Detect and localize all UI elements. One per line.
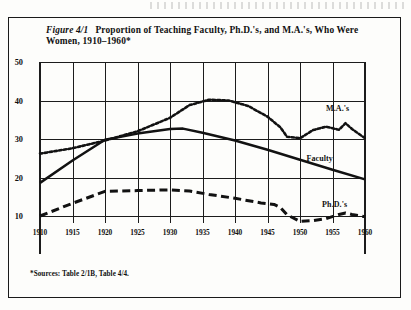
figure-container: Figure 4/1Proportion of Teaching Faculty… bbox=[0, 0, 411, 310]
x-tick-1960 bbox=[365, 216, 366, 223]
x-tick-1930 bbox=[170, 216, 171, 223]
series-label-phd: Ph.D.'s bbox=[322, 200, 347, 209]
x-tick-1940 bbox=[235, 216, 236, 223]
x-tick-label-1935: 1935 bbox=[195, 228, 209, 237]
x-tick-label-1920: 1920 bbox=[98, 228, 112, 237]
x-tick-label-1945: 1945 bbox=[260, 228, 274, 237]
x-tick-label-1930: 1930 bbox=[163, 228, 177, 237]
plot-area: 1020304050 19101915192019251930193519401… bbox=[40, 62, 365, 216]
x-tick-1935 bbox=[203, 216, 204, 223]
x-tick-label-1950: 1950 bbox=[293, 228, 307, 237]
figure-number: Figure 4/1 bbox=[46, 25, 95, 35]
x-tick-label-1955: 1955 bbox=[325, 228, 339, 237]
y-tick-label-10: 10 bbox=[1, 212, 23, 221]
x-tick-1915 bbox=[73, 216, 74, 223]
y-tick-label-30: 30 bbox=[1, 135, 23, 144]
y-tick-label-40: 40 bbox=[1, 96, 23, 105]
x-tick-label-1910: 1910 bbox=[33, 228, 47, 237]
data-series-lines bbox=[40, 62, 365, 216]
scan-artifact-header bbox=[150, 2, 405, 9]
series-label-faculty: Faculty bbox=[307, 154, 333, 163]
series-line-mas bbox=[40, 100, 365, 154]
figure-title-block: Figure 4/1Proportion of Teaching Faculty… bbox=[46, 25, 364, 48]
y-tick-label-20: 20 bbox=[1, 173, 23, 182]
x-tick-1950 bbox=[300, 216, 301, 223]
x-tick-1945 bbox=[268, 216, 269, 223]
y-tick-label-50: 50 bbox=[1, 58, 23, 67]
figure-footnote: *Sources: Table 2/1B, Table 4/4. bbox=[30, 270, 129, 278]
x-tick-label-1940: 1940 bbox=[228, 228, 242, 237]
x-tick-1925 bbox=[138, 216, 139, 223]
series-label-ma: M.A.'s bbox=[326, 104, 349, 113]
x-tick-label-1960: 1960 bbox=[358, 228, 372, 237]
x-tick-1920 bbox=[105, 216, 106, 223]
x-tick-label-1915: 1915 bbox=[65, 228, 79, 237]
x-tick-label-1925: 1925 bbox=[130, 228, 144, 237]
